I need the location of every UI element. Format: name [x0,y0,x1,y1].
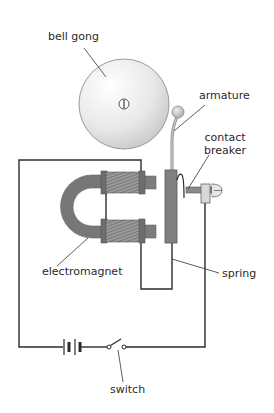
label-switch: switch [110,383,145,396]
bell-gong [79,59,169,149]
switch-icon [107,339,126,349]
gong-bolt-icon [119,99,129,109]
label-contact-breaker: contact breaker [204,131,246,157]
armature [165,106,184,243]
label-electromagnet: electromagnet [42,265,122,278]
bottom-coil [101,219,145,243]
label-bell-gong: bell gong [48,30,99,43]
battery-icon [64,339,80,355]
contact-breaker [186,184,222,203]
label-armature: armature [199,89,250,102]
armature-bar [165,170,177,243]
label-spring: spring [222,267,256,280]
hammer-ball [172,106,184,118]
electromagnet [61,171,157,243]
electric-bell-diagram: bell gong armature contact breaker elect… [0,0,274,413]
electromagnet-core [61,175,106,238]
top-coil [101,171,145,194]
